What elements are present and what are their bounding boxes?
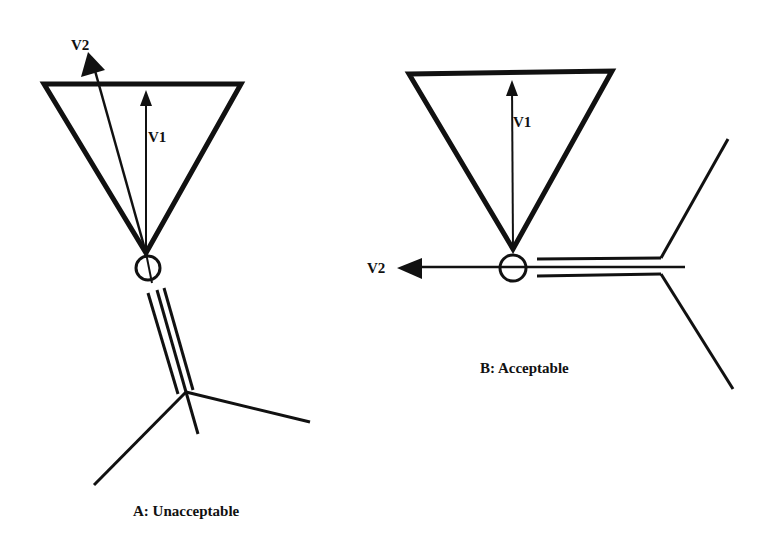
v1-label-b: V1 bbox=[513, 114, 531, 130]
v1-arrow-b bbox=[512, 85, 513, 249]
v2-arrowhead-a bbox=[81, 52, 105, 77]
v2-arrow-a bbox=[92, 60, 146, 253]
substituent-bonds-a bbox=[94, 392, 310, 485]
v1-arrowhead-a bbox=[140, 90, 152, 106]
substituent-bonds-b bbox=[661, 139, 733, 389]
v1-arrowhead-b bbox=[506, 80, 518, 96]
panel-a: V2 V1 A: Unacceptable bbox=[44, 37, 310, 519]
v2-label-a: V2 bbox=[71, 37, 89, 53]
diagram-canvas: V2 V1 A: Unacceptable V1 V2 B: Acceptabl… bbox=[0, 0, 768, 549]
panel-b: V1 V2 B: Acceptable bbox=[367, 71, 733, 389]
caption-a: A: Unacceptable bbox=[133, 503, 240, 519]
cone-triangle-b bbox=[409, 71, 612, 249]
v2-arrowhead-b bbox=[397, 258, 422, 279]
cone-triangle-a bbox=[44, 84, 241, 253]
v2-label-b: V2 bbox=[367, 260, 385, 276]
triple-bond-a bbox=[148, 288, 193, 394]
caption-b: B: Acceptable bbox=[480, 360, 569, 376]
v1-label-a: V1 bbox=[148, 129, 166, 145]
